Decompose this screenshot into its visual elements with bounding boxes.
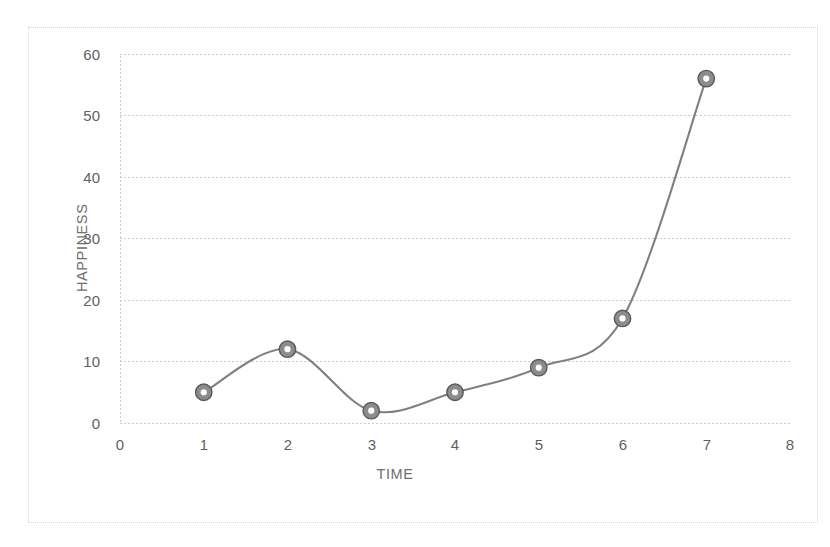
x-tick-5: 5 bbox=[519, 436, 559, 453]
line-chart: HAPPINESS TIME 60 50 40 30 20 10 0 0 1 2… bbox=[0, 0, 830, 547]
y-tick-10: 10 bbox=[58, 353, 100, 370]
x-tick-1: 1 bbox=[184, 436, 224, 453]
plot-canvas bbox=[0, 0, 830, 547]
y-tick-40: 40 bbox=[58, 169, 100, 186]
y-tick-60: 60 bbox=[58, 46, 100, 63]
x-tick-6: 6 bbox=[603, 436, 643, 453]
data-point-marker-center bbox=[368, 408, 374, 414]
y-axis-title: HAPPINESS bbox=[74, 204, 90, 292]
y-tick-50: 50 bbox=[58, 107, 100, 124]
x-tick-0: 0 bbox=[100, 436, 140, 453]
data-point-marker-center bbox=[284, 346, 290, 352]
x-tick-7: 7 bbox=[687, 436, 727, 453]
data-point-marker-center bbox=[619, 315, 625, 321]
data-point-markers bbox=[196, 70, 715, 419]
axis-lines bbox=[120, 54, 121, 424]
y-tick-30: 30 bbox=[58, 230, 100, 247]
x-tick-8: 8 bbox=[770, 436, 810, 453]
gridlines bbox=[120, 54, 790, 424]
data-point-marker-center bbox=[201, 389, 207, 395]
data-point-marker-center bbox=[536, 365, 542, 371]
x-axis-title: TIME bbox=[0, 466, 790, 482]
data-point-marker-center bbox=[703, 76, 709, 82]
x-tick-4: 4 bbox=[435, 436, 475, 453]
y-tick-20: 20 bbox=[58, 292, 100, 309]
x-tick-2: 2 bbox=[268, 436, 308, 453]
x-tick-3: 3 bbox=[352, 436, 392, 453]
data-point-marker-center bbox=[452, 389, 458, 395]
y-tick-0: 0 bbox=[58, 415, 100, 432]
data-series-line bbox=[204, 79, 707, 413]
